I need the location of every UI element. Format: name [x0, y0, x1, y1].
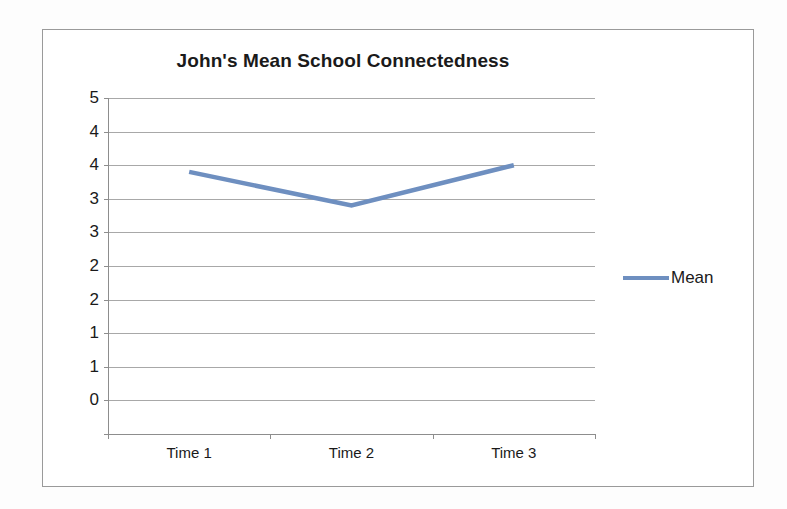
y-axis-tick-label: 3: [90, 222, 99, 242]
chart-title: John's Mean School Connectedness: [43, 50, 753, 72]
y-axis-tick-label: 2: [90, 256, 99, 276]
x-axis-tick-label: Time 2: [329, 444, 374, 461]
y-axis-tick-label: 4: [90, 122, 99, 142]
legend-label-mean: Mean: [671, 268, 714, 288]
x-axis-tick-mark: [108, 434, 109, 439]
y-axis-tick-label: 2: [90, 290, 99, 310]
y-axis-tick-label: 3: [90, 189, 99, 209]
y-axis-tick-label: 0: [90, 390, 99, 410]
x-axis-tick-mark: [433, 434, 434, 439]
x-axis-tick-mark: [595, 434, 596, 439]
series-line-mean: [189, 165, 514, 205]
gridline: [108, 434, 595, 435]
x-axis-tick-label: Time 1: [167, 444, 212, 461]
y-axis-tick-label: 1: [90, 357, 99, 377]
y-axis-tick-label: 5: [90, 88, 99, 108]
legend-swatch-mean: [623, 276, 669, 280]
chart-frame: John's Mean School Connectedness 5443322…: [42, 29, 754, 487]
y-axis-tick-label: 1: [90, 323, 99, 343]
x-axis-tick-mark: [270, 434, 271, 439]
y-axis-tick-label: 4: [90, 155, 99, 175]
chart-legend: Mean: [623, 268, 714, 288]
scanned-page: John's Mean School Connectedness 5443322…: [0, 0, 787, 509]
series-plot: [108, 98, 595, 434]
x-axis-tick-label: Time 3: [491, 444, 536, 461]
plot-area: 5443322110 Time 1Time 2Time 3: [108, 98, 595, 434]
